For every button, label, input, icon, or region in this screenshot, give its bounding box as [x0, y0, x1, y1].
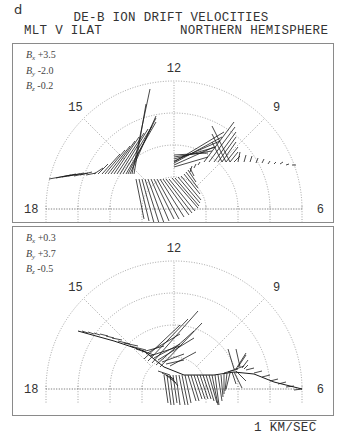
drift-vector — [254, 371, 262, 373]
mlt-label-6: 6 — [317, 203, 324, 217]
polar-plot-panel-1: 18612159 Bx +3.5 By -2.0 Bz -0.2 — [12, 43, 334, 223]
imf-by: By -2.0 — [26, 65, 56, 81]
drift-vector — [242, 360, 248, 368]
polar-dial-plot: 18612159 — [13, 227, 333, 415]
drift-vector — [232, 372, 236, 384]
drift-vector — [244, 155, 246, 162]
mlt-label-6: 6 — [317, 383, 324, 397]
ion-drift-vectors — [49, 89, 296, 222]
polar-plot-panel-2: 18612159 Bx +0.3 By +3.7 Bz -0.5 — [12, 226, 334, 416]
imf-bx: Bx +3.5 — [26, 49, 56, 65]
mlt-label-15: 15 — [68, 281, 82, 295]
imf-bz: Bz -0.5 — [26, 263, 56, 279]
drift-vector — [136, 179, 144, 219]
drift-vector — [280, 162, 283, 164]
polar-dial-plot: 18612159 — [13, 44, 333, 222]
drift-vector — [262, 375, 270, 377]
drift-vector — [244, 365, 248, 369]
drift-vector — [236, 349, 240, 367]
drift-vector — [221, 375, 223, 397]
drift-vector — [234, 372, 242, 388]
drift-vector — [270, 379, 278, 381]
ion-drift-vectors — [78, 311, 302, 405]
mlt-label-18: 18 — [24, 383, 38, 397]
drift-vector — [294, 389, 302, 390]
drift-vector — [286, 164, 289, 165]
drift-vector — [156, 331, 194, 365]
mlt-label-9: 9 — [273, 281, 280, 295]
mlt-spoke — [83, 298, 151, 366]
imf-values: Bx +3.5 By -2.0 Bz -0.2 — [26, 49, 56, 96]
latitude-ring — [142, 177, 206, 209]
drift-vector — [186, 172, 198, 188]
imf-bz: Bz -0.2 — [26, 80, 56, 96]
drift-vector — [182, 375, 188, 405]
drift-vector — [175, 178, 199, 206]
drift-vector — [142, 346, 164, 352]
figure-title: DE-B ION DRIFT VELOCITIES — [0, 11, 342, 25]
drift-vector — [230, 152, 238, 162]
drift-vector — [151, 179, 169, 221]
mlt-label-12: 12 — [167, 62, 181, 76]
drift-vector — [106, 336, 114, 338]
drift-vector — [179, 375, 185, 405]
drift-vector — [102, 154, 120, 174]
imf-values: Bx +0.3 By +3.7 Bz -0.5 — [26, 232, 56, 279]
drift-vector — [198, 162, 200, 165]
drift-vector — [246, 368, 254, 370]
drift-vector — [228, 349, 234, 369]
drift-vector — [238, 152, 240, 162]
mlt-label-12: 12 — [167, 242, 181, 256]
drift-vector — [194, 164, 196, 168]
drift-vector — [262, 159, 264, 163]
hemisphere-label: NORTHERN HEMISPHERE — [180, 24, 328, 38]
drift-vector — [100, 334, 108, 336]
drift-vector — [174, 137, 222, 163]
imf-by: By +3.7 — [26, 248, 56, 264]
drift-vector — [148, 179, 164, 222]
mlt-label-15: 15 — [68, 101, 82, 115]
drift-vector — [112, 338, 122, 340]
drift-vector — [152, 311, 198, 363]
drift-vector — [268, 161, 270, 164]
drift-vector — [108, 146, 130, 174]
velocity-scale-label: 1 KM/SEC — [254, 421, 316, 435]
drift-vector — [169, 179, 195, 211]
mlt-label-9: 9 — [273, 101, 280, 115]
imf-bx: Bx +0.3 — [26, 232, 56, 248]
drift-vector — [250, 156, 252, 162]
mlt-label-18: 18 — [24, 203, 38, 217]
scale-bar: KM/SEC — [270, 421, 317, 435]
drift-vector — [274, 162, 276, 164]
coordinate-label: MLT V ILAT — [24, 24, 102, 38]
mlt-spoke — [197, 118, 265, 186]
